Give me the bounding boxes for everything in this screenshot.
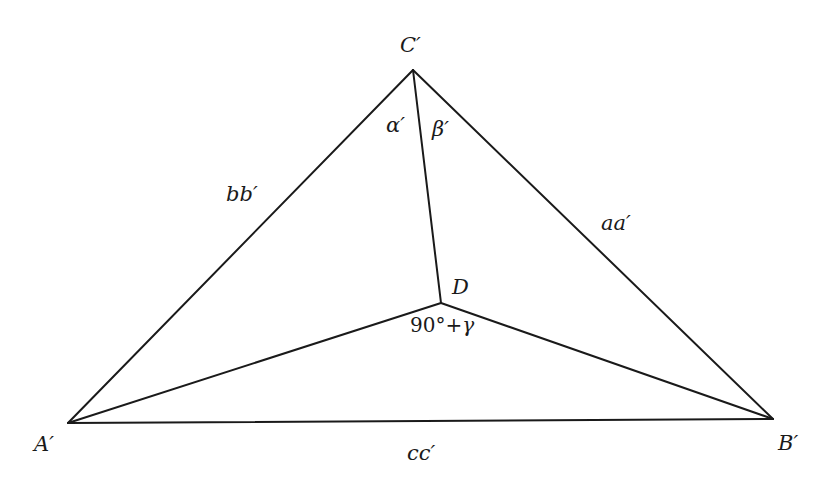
edge-c-b xyxy=(413,70,773,419)
vertex-label-a: A′ xyxy=(32,432,54,456)
triangle-diagram: C′ A′ B′ D bb′ aa′ cc′ α′ β′ 90°+γ xyxy=(0,0,827,486)
edge-a-b xyxy=(68,419,773,423)
side-label-cc: cc′ xyxy=(407,441,436,465)
side-label-aa: aa′ xyxy=(601,211,631,235)
angle-label-alpha: α′ xyxy=(386,113,405,137)
edge-a-d xyxy=(68,303,441,423)
edge-c-a xyxy=(68,70,413,423)
edge-c-d xyxy=(413,70,441,303)
vertex-label-b: B′ xyxy=(777,431,798,455)
side-label-bb: bb′ xyxy=(226,182,258,206)
angle-label-beta: β′ xyxy=(431,117,449,141)
angle-label-d: 90°+γ xyxy=(410,313,474,337)
edge-b-d xyxy=(441,303,773,419)
vertex-label-c: C′ xyxy=(400,33,421,57)
vertex-label-d: D xyxy=(451,275,469,299)
